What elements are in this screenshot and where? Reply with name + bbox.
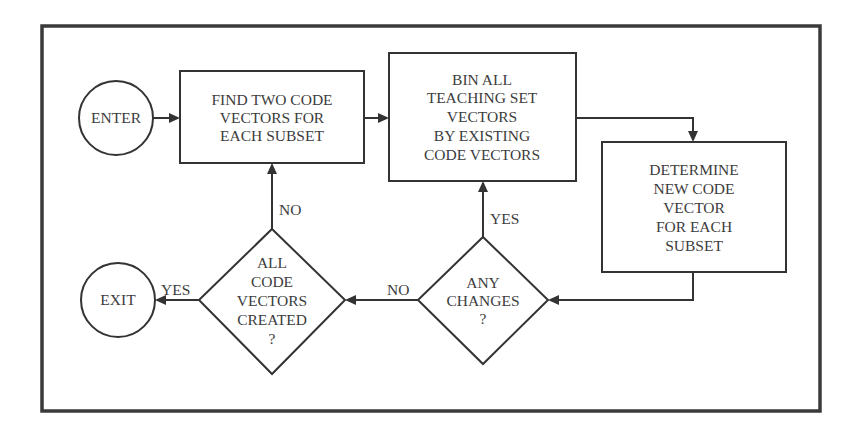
arrowhead-icon — [688, 131, 698, 142]
bin-label-line-3: VECTORS — [447, 108, 517, 125]
edge-all-created-yes-to-exit: YES — [155, 281, 199, 305]
edge-changes-yes-to-bin: YES — [478, 181, 519, 237]
any-changes-decision-node: ANY CHANGES ? — [418, 237, 548, 364]
edge-all-created-no-to-find: NO — [267, 163, 301, 229]
arrowhead-icon — [345, 295, 356, 305]
edge-find-to-bin — [364, 113, 389, 123]
all-created-label-line-3: VECTORS — [237, 292, 307, 309]
determine-label-line-3: VECTOR — [663, 199, 725, 216]
all-created-label-line-5: ? — [269, 330, 276, 347]
edge-enter-to-find — [153, 113, 180, 123]
edge-bin-to-determine — [576, 118, 698, 142]
flowchart-canvas: ENTER FIND TWO CODE VECTORS FOR EACH SUB… — [0, 0, 861, 431]
find-code-vectors-node: FIND TWO CODE VECTORS FOR EACH SUBSET — [180, 71, 364, 163]
changes-no-label: NO — [387, 281, 409, 298]
bin-label-line-4: BY EXISTING — [434, 127, 530, 144]
all-created-label-line-1: ALL — [257, 254, 287, 271]
determine-label-line-5: SUBSET — [665, 237, 723, 254]
bin-label-line-5: CODE VECTORS — [424, 146, 540, 163]
bin-label-line-2: TEACHING SET — [427, 89, 538, 106]
exit-label: EXIT — [100, 291, 136, 308]
arrowhead-icon — [478, 181, 488, 192]
all-created-label-line-4: CREATED — [237, 311, 307, 328]
determine-new-code-vector-node: DETERMINE NEW CODE VECTOR FOR EACH SUBSE… — [602, 142, 786, 272]
find-label-line-2: VECTORS FOR — [220, 109, 325, 126]
arrowhead-icon — [169, 113, 180, 123]
arrowhead-icon — [378, 113, 389, 123]
arrowhead-icon — [548, 295, 559, 305]
all-created-label-line-2: CODE — [251, 273, 293, 290]
bin-teaching-set-node: BIN ALL TEACHING SET VECTORS BY EXISTING… — [389, 53, 576, 181]
changes-label-line-2: CHANGES — [446, 292, 519, 309]
determine-label-line-2: NEW CODE — [653, 180, 734, 197]
changes-label-line-3: ? — [480, 310, 487, 327]
bin-label-line-1: BIN ALL — [452, 71, 512, 88]
find-label-line-3: EACH SUBSET — [220, 127, 324, 144]
all-code-vectors-created-decision-node: ALL CODE VECTORS CREATED ? — [199, 229, 345, 374]
edge-determine-to-changes — [548, 272, 693, 305]
arrowhead-icon — [267, 163, 277, 174]
edge-changes-no-to-all-created: NO — [345, 281, 418, 305]
exit-node: EXIT — [81, 263, 155, 337]
find-label-line-1: FIND TWO CODE — [211, 91, 332, 108]
all-created-no-label: NO — [279, 201, 301, 218]
determine-label-line-1: DETERMINE — [649, 161, 739, 178]
changes-label-line-1: ANY — [466, 274, 500, 291]
enter-node: ENTER — [79, 81, 153, 155]
enter-label: ENTER — [91, 109, 142, 126]
all-created-yes-label: YES — [161, 281, 190, 298]
determine-label-line-4: FOR EACH — [656, 218, 732, 235]
changes-yes-label: YES — [490, 210, 519, 227]
